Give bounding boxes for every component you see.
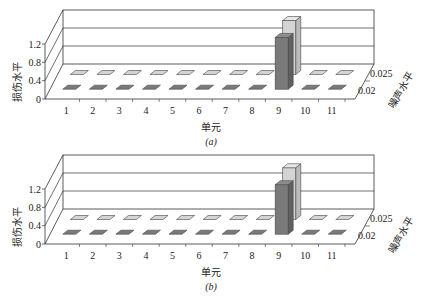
y-tick-label: 0.4 xyxy=(29,220,42,231)
side-gridline xyxy=(45,173,63,207)
back-wall xyxy=(63,10,374,64)
bar-side xyxy=(296,164,301,220)
x-tick-label: 4 xyxy=(143,105,148,116)
x-tick-label: 2 xyxy=(90,250,95,261)
bar-tile xyxy=(123,71,141,75)
y-tick-label: 0 xyxy=(36,94,41,105)
bar-0.02 xyxy=(275,185,288,235)
bar-tile xyxy=(196,230,214,234)
back-wall xyxy=(63,155,374,209)
x-tick-label: 4 xyxy=(143,250,148,261)
bar-tile xyxy=(89,85,107,89)
bar-tile xyxy=(302,230,320,234)
x-tick-label: 6 xyxy=(197,250,202,261)
bar-tile xyxy=(63,85,81,89)
y-tick-label: 0 xyxy=(36,239,41,250)
bar-tile xyxy=(97,216,115,220)
x-tick-label: 5 xyxy=(170,250,175,261)
x-tick-label: 8 xyxy=(250,105,255,116)
y-axis-label: 损伤水平 xyxy=(11,62,23,102)
bar-tile xyxy=(142,85,160,89)
y-tick-label: 0.8 xyxy=(29,57,42,68)
bar-tile xyxy=(309,71,327,75)
bar-side xyxy=(296,17,301,75)
bar-tile xyxy=(70,71,88,75)
bar-side xyxy=(288,33,293,89)
z-tick-label: 0.02 xyxy=(358,85,376,96)
bar-tile xyxy=(336,71,354,75)
y-tick-label: 1.2 xyxy=(29,184,42,195)
bar-tile xyxy=(123,216,141,220)
bar-tile xyxy=(230,216,248,220)
bar-tile xyxy=(328,85,346,89)
bar-0.02 xyxy=(275,37,288,89)
y-tick-label: 0.8 xyxy=(29,202,42,213)
side-wall-top-edge xyxy=(45,10,63,44)
bar-tile xyxy=(222,230,240,234)
bar-tile xyxy=(63,230,81,234)
x-tick-label: 8 xyxy=(250,250,255,261)
bar-tile xyxy=(150,71,168,75)
floor-left-edge xyxy=(45,64,63,99)
side-wall-top-edge xyxy=(45,155,63,189)
chart-panel-b: 00.40.81.2损伤水平12345678910110.0250.02噪声水平… xyxy=(0,145,425,293)
bar-tile xyxy=(249,230,267,234)
bar-tile xyxy=(336,216,354,220)
y-tick-label: 0.4 xyxy=(29,75,42,86)
bar-tile xyxy=(203,71,221,75)
bar-tile xyxy=(70,216,88,220)
bar-tile xyxy=(249,85,267,89)
x-tick-label: 11 xyxy=(327,105,337,116)
x-tick-label: 10 xyxy=(300,250,310,261)
side-gridline xyxy=(45,28,63,62)
bar-tile xyxy=(328,230,346,234)
z-tick-label: 0.02 xyxy=(358,230,376,241)
floor-left-edge xyxy=(45,209,63,244)
bar-tile xyxy=(116,230,134,234)
bar-tile xyxy=(169,85,187,89)
x-tick-label: 1 xyxy=(64,105,69,116)
chart-a: 00.40.81.2损伤水平12345678910110.0250.02噪声水平… xyxy=(0,0,425,148)
x-tick-label: 10 xyxy=(300,105,310,116)
bar-tile xyxy=(97,71,115,75)
x-tick-label: 5 xyxy=(170,105,175,116)
x-tick-label: 9 xyxy=(276,105,281,116)
bar-tile xyxy=(222,85,240,89)
bar-tile xyxy=(89,230,107,234)
chart-panel-a: 00.40.81.2损伤水平12345678910110.0250.02噪声水平… xyxy=(0,0,425,148)
bar-tile xyxy=(256,71,274,75)
x-tick-label: 3 xyxy=(117,105,122,116)
bar-tile xyxy=(256,216,274,220)
x-axis-label: 单元 xyxy=(201,122,221,133)
x-tick-label: 2 xyxy=(90,105,95,116)
x-tick-label: 7 xyxy=(223,250,228,261)
y-tick-label: 1.2 xyxy=(29,39,42,50)
bar-tile xyxy=(302,85,320,89)
bar-side xyxy=(288,181,293,235)
bar-tile xyxy=(169,230,187,234)
side-gridline xyxy=(45,191,63,226)
z-tick-label: 0.025 xyxy=(370,213,393,224)
x-tick-label: 1 xyxy=(64,250,69,261)
x-axis-label: 单元 xyxy=(201,267,221,278)
bar-tile xyxy=(177,216,195,220)
x-tick-label: 6 xyxy=(197,105,202,116)
bar-tile xyxy=(203,216,221,220)
bar-tile xyxy=(309,216,327,220)
x-tick-label: 7 xyxy=(223,105,228,116)
chart-b: 00.40.81.2损伤水平12345678910110.0250.02噪声水平… xyxy=(0,145,425,297)
x-tick-label: 11 xyxy=(327,250,337,261)
x-tick-label: 9 xyxy=(276,250,281,261)
bar-tile xyxy=(116,85,134,89)
bar-tile xyxy=(177,71,195,75)
y-axis-label: 损伤水平 xyxy=(11,207,23,247)
chart-caption: (b) xyxy=(205,281,217,293)
bar-tile xyxy=(142,230,160,234)
bar-tile xyxy=(150,216,168,220)
z-tick-label: 0.025 xyxy=(370,68,393,79)
bar-tile xyxy=(196,85,214,89)
x-tick-label: 3 xyxy=(117,250,122,261)
bar-tile xyxy=(230,71,248,75)
side-gridline xyxy=(45,46,63,81)
